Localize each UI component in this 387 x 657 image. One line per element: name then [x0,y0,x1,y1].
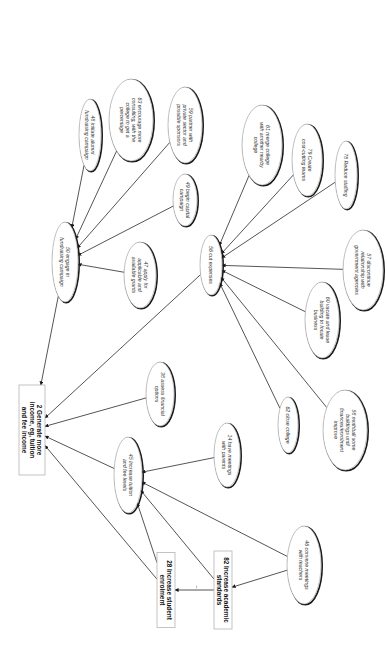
causal-map-diagram: – 2 Generate moreincome, eg, tuitionand … [0,0,387,657]
node-label-line: and fee income [21,407,28,454]
option-node-62: 62 close college [278,397,299,454]
node-label-line: 62 close college [285,406,291,443]
node-label-line: enrolment [159,575,166,607]
node-label-line: cost-cutting teams [301,139,307,181]
option-node-61: 61 merge collegewith another nearbycolle… [242,105,283,186]
node-label-line: college [253,137,259,154]
edge-28-to-45 [137,503,157,562]
edge-47-to-50 [78,264,124,272]
node-label-line: 78 Reduce staffing [343,153,349,196]
edge-48-to-50 [72,165,84,228]
edge-60-to-56 [222,270,306,311]
option-node-58: 58 mothball somebuildings untilfinances/… [323,390,368,471]
node-label-line: business [313,310,319,331]
edge-57-to-56 [222,265,343,269]
option-node-59: 59 partner withprivate sector andpossibl… [168,87,203,164]
edge-45-to-2 [45,436,114,468]
edge-82-to-45 [141,490,214,579]
option-node-45: 45 Increase tuitionand fee levels [114,437,143,514]
option-node-49: 49 begin capitalcampaign [173,174,198,227]
edge-61-to-56 [219,175,249,245]
node-label-line: campaign [179,189,185,212]
edge-polarity-label: – [194,586,200,589]
option-node-57: 57 discontinuerelationship withgovernmen… [343,230,384,311]
edge-14-to-45 [142,458,214,473]
option-node-14: 14 have meetingswith parents [214,423,241,488]
nodes-layer: 2 Generate moreincome, eg, tuitionand fe… [19,79,384,629]
goal-node-82: 82 Increase academicstandards [214,551,232,629]
node-label-line: with teachers [298,550,304,581]
option-node-47: 47 apply forapplicable andavailable gran… [124,242,157,309]
node-label-line: 56 cut expenses [208,246,214,284]
node-label-line: standards [216,575,223,606]
node-label-line: 28 Increase student [166,560,173,621]
edge-38-to-2 [45,398,146,426]
option-node-78: 78 Reduce staffing [335,141,358,210]
node-label-line: 82 Increase academic [223,557,230,623]
option-node-38: 38 assess financialoptions [146,362,175,427]
node-label-line: 2 Generate more [36,405,43,456]
node-label-line: fundraising campaign [59,237,65,286]
edge-79-to-56 [221,175,293,254]
node-label-line: government agencies [354,245,360,295]
option-node-63: 63 encourage moreconsulting, with thecol… [109,79,154,162]
goal-node-2: 2 Generate moreincome, eg, tuitionand fe… [19,385,45,475]
node-label-line: options [154,386,160,403]
edge-50-to-2 [41,296,58,385]
edge-46-to-45 [142,482,288,556]
edge-62-to-56 [220,283,280,408]
option-node-48: 48 initiate alumnifundraising campaign [79,99,102,172]
goal-node-28: 28 Increase studentenrolment [157,553,175,628]
option-node-50: 50 engage infundraising campaign [52,222,79,303]
node-label-line: percentage [119,106,125,133]
node-label-line: fundraising campaign [84,110,90,159]
option-node-60: 60 vacate and leasebuilding to locatebus… [305,282,340,359]
node-label-line: and fee levels [122,459,128,491]
option-node-56: 56 cut expenses [200,235,223,296]
edge-78-to-56 [222,182,336,258]
node-label-line: improve [333,421,339,440]
option-node-46: 46 convene meetingswith teachers [287,526,322,605]
edge-46-to-82 [232,570,287,587]
node-label-line: available grants [131,257,137,294]
node-label-line: possible sponsors [176,103,182,146]
option-node-79: 79 Createcost-cutting teams [292,124,323,197]
node-label-line: with parents [221,441,227,469]
